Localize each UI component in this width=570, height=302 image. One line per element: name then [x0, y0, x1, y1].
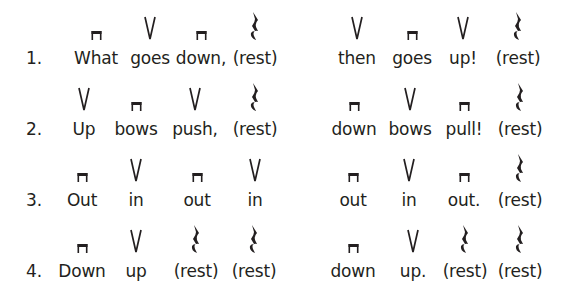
lyric-word: (rest) [220, 48, 290, 68]
lyric-word: (rest) [485, 119, 555, 139]
lyric-word: (rest) [483, 48, 553, 68]
up-bow-icon [220, 158, 290, 184]
quarter-rest-icon [220, 11, 290, 37]
lyric-word: (rest) [219, 261, 289, 281]
lyric-word: (rest) [485, 190, 555, 210]
quarter-rest-icon [485, 224, 555, 250]
quarter-rest-icon [219, 224, 289, 250]
exercise-line-4: 4. Down up (rest) (rest) down up. (rest)… [0, 227, 570, 297]
line-number: 4. [26, 261, 42, 281]
lyric-word: (rest) [485, 261, 555, 281]
quarter-rest-icon [485, 153, 555, 179]
exercise-line-3: 3. Out in out in out in out. (rest) [0, 156, 570, 226]
line-number: 1. [26, 48, 42, 68]
line-number: 3. [26, 190, 42, 210]
up-bow-icon [101, 158, 171, 184]
exercise-line-1: 1. What goes down, (rest) then goes up! … [0, 14, 570, 84]
exercise-line-2: 2. Up bows push, (rest) down bows pull! … [0, 85, 570, 155]
lyric-word: (rest) [220, 119, 290, 139]
quarter-rest-icon [485, 82, 555, 108]
lyric-word: in [101, 190, 171, 210]
line-number: 2. [26, 119, 42, 139]
quarter-rest-icon [220, 82, 290, 108]
quarter-rest-icon [483, 11, 553, 37]
lyric-word: in [220, 190, 290, 210]
